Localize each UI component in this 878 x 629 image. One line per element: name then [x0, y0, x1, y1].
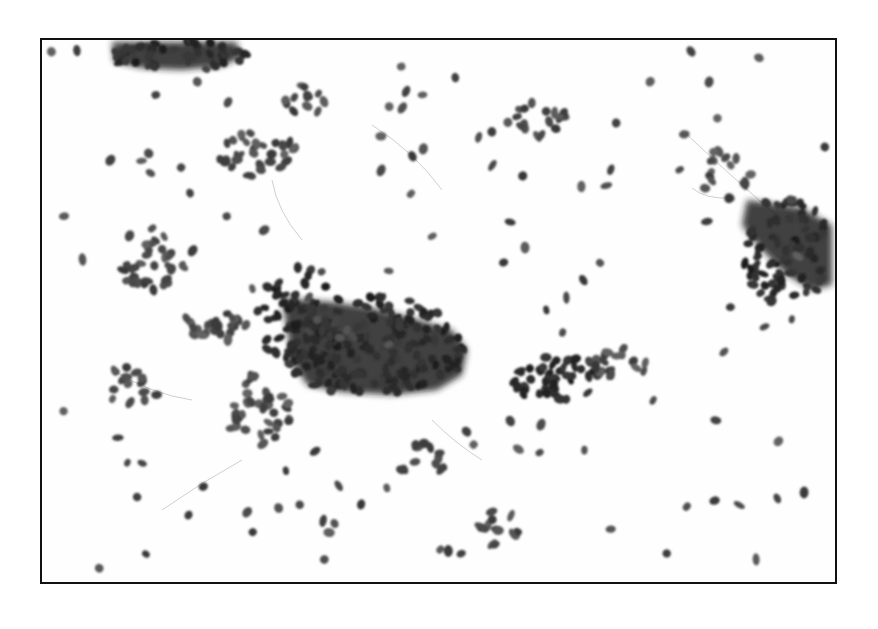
scattered-cell — [396, 62, 406, 72]
upper-cluster-cell — [265, 158, 276, 167]
lower-left-cluster-cell — [269, 408, 279, 418]
scattered-cell — [112, 434, 124, 441]
central-cluster-cell — [269, 345, 282, 359]
scattered-cell — [511, 442, 525, 455]
right-edge-cluster-cell — [724, 193, 733, 203]
scattered-cell — [752, 553, 760, 566]
scattered-cell — [661, 548, 672, 559]
scattered-cell — [474, 131, 484, 144]
scattered-cell — [109, 385, 119, 394]
scattered-cell — [141, 549, 151, 559]
scattered-cell — [396, 101, 409, 116]
upper-cell-group — [300, 100, 314, 113]
scattered-cell — [820, 142, 829, 151]
micrograph-image — [42, 40, 835, 582]
scattered-cell — [316, 267, 326, 277]
scattered-cell — [648, 395, 658, 406]
central-cluster-cell — [260, 333, 273, 346]
scattered-cell — [222, 96, 234, 109]
scattered-cell — [558, 327, 567, 337]
micrograph-frame: Grayscale cytology micrograph showing sc… — [40, 38, 837, 584]
lower-left-cluster-cell — [242, 389, 252, 398]
center-right-cluster-cell — [611, 352, 622, 359]
lower-left-cluster-cell — [230, 402, 240, 410]
scattered-cell — [93, 562, 105, 574]
scattered-cell — [375, 163, 387, 178]
left-lower-cell-group — [123, 395, 136, 410]
scattered-cell — [400, 84, 412, 98]
upper-right-cell-group — [540, 105, 552, 117]
scattered-cell — [318, 554, 330, 566]
scattered-cell — [577, 273, 589, 286]
scattered-cell — [606, 163, 616, 176]
upper-cluster-cell — [266, 149, 277, 159]
scattered-cell — [150, 90, 161, 100]
scattered-cell — [175, 162, 186, 173]
scattered-cell — [486, 159, 498, 173]
scattered-cell — [273, 502, 284, 514]
center-right-cluster-cell — [525, 363, 535, 373]
scattered-cell — [498, 257, 509, 268]
scattered-cell — [191, 76, 203, 88]
scattered-cell — [78, 253, 87, 266]
scattered-cell — [329, 517, 341, 529]
scattered-cell — [356, 498, 367, 510]
lower-left-cluster-cell — [239, 424, 251, 435]
upper-right-cell-group — [528, 98, 536, 109]
scattered-cell — [323, 528, 335, 538]
scattered-cell — [504, 217, 516, 226]
scattered-cell — [710, 415, 722, 425]
scattered-cell — [753, 52, 766, 64]
center-right-cluster-cell — [582, 387, 595, 399]
scattered-cell — [318, 514, 328, 528]
scattered-cell — [136, 157, 147, 164]
left-lower-cell-group — [151, 390, 162, 399]
scattered-cell — [426, 231, 437, 241]
scattered-cell — [799, 486, 808, 498]
scattered-cell — [611, 118, 621, 128]
scattered-cell — [136, 458, 147, 468]
lower-center-cell-group — [409, 457, 421, 466]
scattered-cell — [772, 435, 786, 449]
scattered-cell — [726, 303, 736, 311]
scattered-cell — [703, 75, 715, 88]
right-edge-cluster-cell — [732, 153, 740, 164]
scattered-cell — [384, 267, 394, 275]
scattered-cell — [123, 458, 132, 468]
scattered-cell — [240, 505, 254, 519]
fibrous-strand — [272, 180, 302, 240]
scattered-cell — [123, 229, 136, 243]
right-edge-cluster-cell — [699, 183, 711, 193]
scattered-cell — [534, 448, 545, 458]
scattered-cell — [468, 439, 479, 450]
scattered-cell — [685, 45, 698, 59]
bottom-center-cell-group — [506, 509, 517, 523]
scattered-cell — [405, 188, 416, 199]
scattered-cell — [417, 91, 427, 98]
fibrous-strands — [112, 125, 782, 510]
scattered-cell — [58, 212, 69, 221]
scattered-cell — [197, 481, 209, 492]
scattered-cell — [247, 527, 258, 538]
scattered-cell — [516, 170, 529, 183]
central-cluster-cell — [380, 375, 386, 386]
scattered-cell — [222, 211, 232, 221]
scattered-cell — [131, 491, 143, 503]
scattered-cell — [144, 167, 156, 178]
scattered-cell — [382, 483, 391, 493]
scattered-cell — [681, 501, 692, 512]
scattered-cell — [308, 445, 322, 458]
scattered-cell — [772, 492, 783, 504]
scattered-cell — [375, 132, 386, 140]
scattered-cell — [186, 243, 200, 258]
scattered-cell — [58, 406, 68, 416]
central-cluster-cell — [404, 297, 415, 305]
lower-left-cluster-cell — [263, 428, 274, 435]
scattered-cell — [248, 283, 256, 293]
central-cluster-cell — [304, 271, 312, 280]
scattered-cell — [282, 466, 290, 476]
upper-right-cell-group — [503, 118, 512, 128]
central-cluster-cell — [272, 333, 286, 344]
scattered-cell — [460, 425, 473, 439]
scattered-cell — [257, 223, 272, 237]
